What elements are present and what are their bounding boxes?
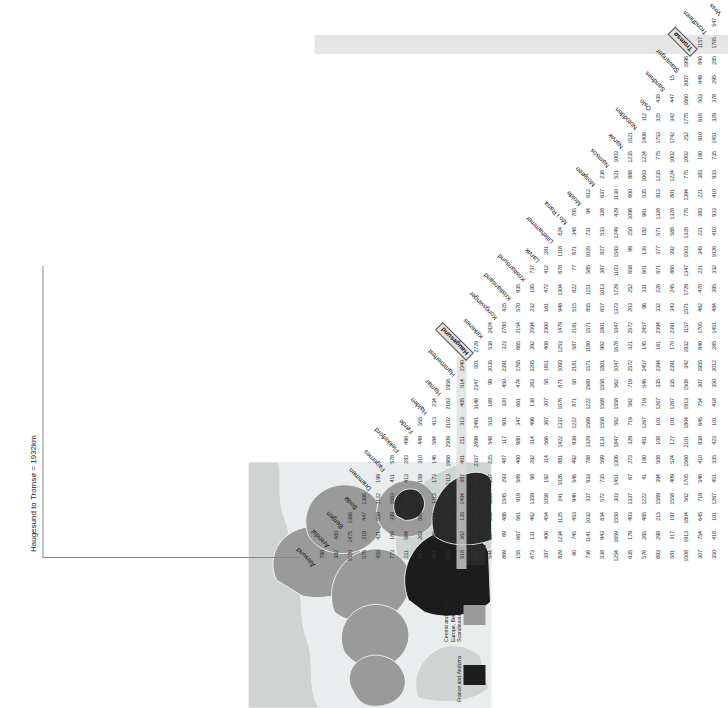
matrix-cell: 570	[514, 303, 520, 321]
matrix-cell: 855	[584, 303, 590, 321]
matrix-cell: 221	[696, 189, 702, 207]
matrix-cell: 67	[626, 474, 632, 492]
matrix-cell: 413	[402, 474, 408, 492]
matrix-cell: 691	[416, 550, 422, 568]
matrix-cell: 451	[640, 436, 646, 454]
matrix-cell: 2601	[472, 512, 478, 530]
matrix-cell: 578	[388, 455, 394, 473]
matrix-cell: 548	[486, 436, 492, 454]
matrix-cell: 410	[710, 227, 716, 245]
matrix-cell: 234	[430, 398, 436, 416]
matrix-cell: 310	[416, 455, 422, 473]
matrix-cell: 933	[710, 208, 716, 226]
matrix-cell: 829	[556, 550, 562, 568]
matrix-cell: 101	[668, 417, 674, 435]
matrix-cell: 2102	[444, 417, 450, 435]
matrix-cell: 328	[598, 208, 604, 226]
matrix-cell: 478	[696, 284, 702, 302]
matrix-cell: 2394	[654, 322, 660, 340]
matrix-cell: 1337	[626, 493, 632, 511]
matrix-cell: 773	[388, 550, 394, 568]
matrix-cell: 332	[710, 265, 716, 283]
matrix-cell: 307	[696, 550, 702, 568]
matrix-cell: 1659	[612, 531, 618, 549]
matrix-column-label-kristiansand: Kristiansand	[481, 272, 512, 303]
matrix-cell: 1958	[444, 379, 450, 397]
matrix-cell: 1451	[710, 132, 716, 150]
matrix-cell: 555	[416, 417, 422, 435]
matrix-cell: 367	[542, 417, 548, 435]
matrix-column-label-halden: Halden	[408, 397, 428, 417]
matrix-cell: 462	[528, 512, 534, 530]
matrix-cell: 387	[598, 265, 604, 283]
matrix-cell: 546	[696, 474, 702, 492]
matrix-cell: 15	[668, 75, 674, 93]
matrix-cell: 481	[430, 512, 436, 530]
matrix-cell: 1804	[682, 512, 688, 530]
matrix-cell: 108	[654, 436, 660, 454]
matrix-cell: 273	[626, 455, 632, 473]
matrix-cell: 1359	[528, 493, 534, 511]
matrix-cell: 135	[640, 246, 646, 264]
matrix-column-label-molde: Molde	[564, 190, 582, 208]
matrix-cell: 80	[570, 550, 576, 568]
matrix-cell: 245	[668, 284, 674, 302]
matrix-cell: 1003	[612, 151, 618, 169]
matrix-cell: 939	[570, 436, 576, 454]
matrix-cell: 1508	[682, 379, 688, 397]
matrix-cell: 1569	[654, 493, 660, 511]
matrix-cell: 719	[626, 417, 632, 435]
matrix-cell: 425	[500, 303, 506, 321]
matrix-column-label-bod-: Bodø	[342, 495, 358, 511]
matrix-cell: 331	[640, 284, 646, 302]
matrix-cell: 1479	[556, 322, 562, 340]
matrix-cell: 99	[626, 246, 632, 264]
matrix-cell: 265	[640, 531, 646, 549]
matrix-column-label-narvik: Narvik	[606, 132, 624, 150]
matrix-cell: 1130	[612, 189, 618, 207]
matrix-cell: 182	[640, 227, 646, 245]
matrix-cell: 1366	[360, 493, 366, 511]
matrix-cell: 1913	[682, 398, 688, 416]
matrix-cell: 321	[626, 341, 632, 359]
matrix-cell: 387	[542, 550, 548, 568]
matrix-cell: 387	[458, 474, 464, 492]
matrix-cell: 737	[528, 265, 534, 283]
matrix-cell: 378	[710, 94, 716, 112]
matrix-cell: 571	[654, 227, 660, 245]
matrix-cell: 581	[668, 550, 674, 568]
matrix-cell: 472	[542, 284, 548, 302]
matrix-cell: 451	[710, 474, 716, 492]
matrix-cell: 2012	[710, 360, 716, 378]
matrix-cell: 1047	[612, 322, 618, 340]
matrix-cell: 406	[542, 531, 548, 549]
matrix-cell: 449	[416, 436, 422, 454]
matrix-cell: 788	[584, 455, 590, 473]
matrix-cell: 99	[486, 379, 492, 397]
matrix-cell: 170	[668, 341, 674, 359]
matrix-cell: 2181	[570, 360, 576, 378]
matrix-cell: 335	[668, 379, 674, 397]
matrix-cell: 423	[710, 436, 716, 454]
matrix-cell: 1254	[612, 550, 618, 568]
matrix-cell: 2572	[626, 322, 632, 340]
matrix-cell: 871	[570, 398, 576, 416]
matrix-cell: 538	[598, 550, 604, 568]
matrix-cell: 673	[528, 550, 534, 568]
matrix-cell: 1056	[542, 493, 548, 511]
matrix-cell: 447	[668, 94, 674, 112]
matrix-cell: 2035	[486, 360, 492, 378]
matrix-column-label-larvik: Larvik	[523, 247, 540, 264]
matrix-cell: 127	[668, 436, 674, 454]
matrix-cell: 1558	[598, 417, 604, 435]
matrix-cell: 485	[640, 512, 646, 530]
matrix-cell: 418	[710, 398, 716, 416]
matrix-cell: 2394	[654, 360, 660, 378]
highlight-band-column	[314, 35, 728, 54]
matrix-cell: 1267	[668, 398, 674, 416]
matrix-cell: 2305	[472, 550, 478, 568]
matrix-cell: 1508	[682, 550, 688, 568]
matrix-cell: 824	[556, 227, 562, 245]
matrix-column-label-trondheim: Trondheim	[681, 9, 708, 36]
matrix-cell: 460	[514, 455, 520, 473]
